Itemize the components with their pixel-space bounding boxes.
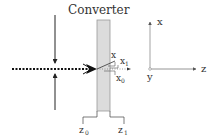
axis-label-x: x xyxy=(157,16,163,27)
label-x: x xyxy=(111,50,116,60)
label-z1: z xyxy=(118,125,123,135)
z0-bracket xyxy=(83,111,97,124)
label-z1-sub: 1 xyxy=(124,129,128,136)
converter-title: Converter xyxy=(68,3,130,17)
x1-bracket xyxy=(110,65,118,68)
continuation-arrowhead-icon xyxy=(127,68,131,71)
label-z0: z xyxy=(79,125,84,135)
label-x1-sub: 1 xyxy=(125,60,129,67)
label-z0-sub: 0 xyxy=(85,129,89,136)
axis-label-y: y xyxy=(146,71,153,82)
y-axis-origin-icon xyxy=(149,68,152,71)
axis-label-z: z xyxy=(201,63,206,74)
converter-slab xyxy=(97,20,110,111)
label-x0-sub: 0 xyxy=(121,77,125,84)
z1-bracket xyxy=(110,111,124,124)
converter-diagram: Converter x x 1 x 0 z 0 z 1 x z y xyxy=(0,0,215,139)
